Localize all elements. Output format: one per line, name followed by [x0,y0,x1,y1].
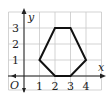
y-axis-arrow-icon [22,8,27,14]
y-tick-label: 3 [12,22,19,35]
x-tick-label: 4 [83,80,90,93]
x-axis-arrow-icon [100,74,106,79]
y-axis-label: y [27,11,35,24]
x-axis-label: x [98,61,105,74]
hexagon-shape [40,28,87,76]
x-tick-label: 2 [52,80,59,93]
coordinate-diagram: x y O 1234123 [0,0,110,99]
grid [9,12,102,90]
x-tick-label: 3 [67,80,74,93]
origin-label: O [10,79,19,92]
y-axis-down-arrow-icon [22,88,26,93]
y-tick-label: 1 [12,54,19,67]
x-axis-left-arrow-icon [11,74,16,78]
y-tick-label: 2 [12,38,19,51]
x-tick-label: 1 [36,80,43,93]
